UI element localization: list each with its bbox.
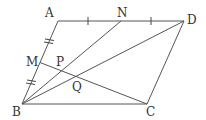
segment-CD	[147, 21, 184, 104]
label-P: P	[56, 55, 64, 69]
label-A: A	[44, 6, 54, 20]
label-D: D	[187, 13, 197, 27]
geometry-diagram: A N D M P Q B C	[0, 0, 206, 120]
label-Q: Q	[72, 80, 82, 94]
label-N: N	[117, 6, 128, 20]
label-B: B	[12, 105, 21, 119]
label-M: M	[26, 55, 38, 69]
segment-BD	[22, 21, 184, 104]
label-C: C	[146, 105, 155, 119]
